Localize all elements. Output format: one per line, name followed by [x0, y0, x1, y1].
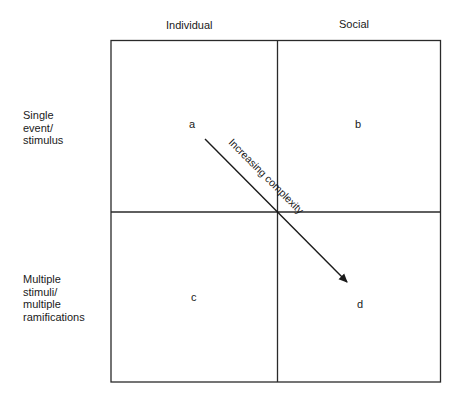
row-label-line: stimulus — [23, 134, 63, 147]
column-header-individual: Individual — [166, 19, 212, 32]
cell-label-c: c — [191, 291, 197, 303]
arrow-label: Increasing complexity — [227, 136, 307, 217]
complexity-arrow — [205, 139, 347, 282]
row-label-line: stimuli/ — [23, 286, 85, 299]
grid-border — [111, 41, 441, 383]
cell-label-d: d — [357, 298, 363, 310]
row-label-line: Multiple — [23, 273, 85, 286]
row-label-multiple-stimuli: Multiple stimuli/ multiple ramifications — [23, 273, 85, 324]
column-header-social: Social — [339, 18, 369, 31]
row-label-line: Single — [23, 109, 63, 122]
row-label-line: multiple — [23, 298, 85, 311]
row-label-line: event/ — [23, 122, 63, 135]
row-label-line: ramifications — [23, 311, 85, 324]
cell-label-b: b — [355, 118, 361, 130]
cell-label-a: a — [189, 118, 195, 130]
row-label-single-event: Single event/ stimulus — [23, 109, 63, 147]
quadrant-grid: Increasing complexity — [0, 0, 464, 401]
